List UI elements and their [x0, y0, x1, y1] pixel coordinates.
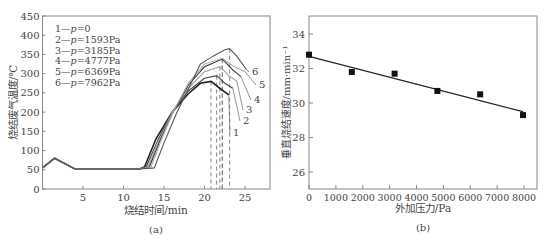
y-tick-label: 0	[33, 184, 39, 195]
y-tick-label: 30	[292, 98, 305, 109]
panel-label-b: (b)	[416, 222, 430, 233]
x-tick-label: 1000	[324, 192, 348, 203]
series-line	[43, 81, 229, 169]
legend-item: 2—p=1593Pa	[55, 34, 121, 45]
x-tick-label: 15	[158, 192, 171, 203]
series-line	[43, 76, 233, 169]
x-tick-label: 10	[117, 192, 130, 203]
series-number-label: 1	[233, 127, 239, 138]
x-tick-label: 25	[239, 192, 252, 203]
x-tick-label: 2000	[351, 192, 375, 203]
series-number-label: 6	[252, 66, 258, 77]
legend-item: 6—p=7962Pa	[55, 77, 121, 88]
x-axis-label: 外加压力/Pa	[395, 202, 451, 214]
figure: 050100150200250300350400450510152025烧结时间…	[0, 0, 548, 242]
panel-label-a: (a)	[149, 224, 163, 235]
y-tick-label: 400	[20, 30, 39, 41]
x-tick-label: 8000	[512, 192, 536, 203]
series-leader	[237, 81, 243, 110]
y-tick-label: 350	[20, 49, 39, 60]
y-tick-label: 300	[20, 68, 39, 79]
y-tick-label: 28	[292, 132, 305, 143]
data-point	[306, 52, 312, 58]
series-leader	[247, 70, 249, 72]
y-axis-label: 烧结废气温度/℃	[7, 65, 19, 141]
y-tick-label: 450	[20, 11, 39, 22]
y-tick-label: 34	[292, 29, 305, 40]
chart-b: 2628303234010002000300040005000600070008…	[280, 16, 537, 233]
x-axis-label: 烧结时间/min	[124, 204, 188, 216]
series-number-label: 4	[254, 94, 260, 105]
series-number-label: 5	[259, 79, 265, 90]
data-point	[477, 91, 483, 97]
plot-frame	[309, 16, 537, 189]
y-tick-label: 150	[20, 126, 39, 137]
series-number-label: 2	[243, 115, 249, 126]
x-tick-label: 7000	[485, 192, 509, 203]
x-tick-label: 0	[306, 192, 312, 203]
y-tick-label: 26	[292, 167, 305, 178]
legend-item: 4—p=4777Pa	[55, 55, 121, 66]
y-tick-label: 250	[20, 87, 39, 98]
data-point	[520, 112, 526, 118]
legend-item: 5—p=6369Pa	[55, 66, 121, 77]
series-leader	[233, 88, 240, 121]
data-point	[349, 69, 355, 75]
x-tick-label: 6000	[458, 192, 482, 203]
fit-line	[309, 56, 523, 111]
y-tick-label: 100	[20, 145, 39, 156]
y-tick-label: 200	[20, 107, 39, 118]
chart-a: 050100150200250300350400450510152025烧结时间…	[7, 11, 270, 236]
x-tick-label: 5	[80, 192, 86, 203]
data-point	[392, 71, 398, 77]
y-tick-label: 32	[292, 63, 305, 74]
y-axis-label: 垂直烧结速度/mm·min⁻¹	[280, 46, 292, 160]
y-tick-label: 50	[27, 164, 40, 175]
x-tick-label: 20	[198, 192, 211, 203]
data-point	[434, 88, 440, 94]
series-leader	[241, 77, 251, 100]
series-number-label: 3	[246, 104, 252, 115]
figure-svg: 050100150200250300350400450510152025烧结时间…	[0, 0, 548, 242]
legend-item: 1—p=0	[55, 23, 91, 34]
legend-item: 3—p=3185Pa	[55, 45, 121, 56]
